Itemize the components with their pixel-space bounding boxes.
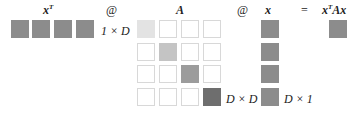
A-cell-2-2 <box>159 43 177 61</box>
x-cell-4 <box>261 88 279 106</box>
x-cell-1 <box>261 20 279 38</box>
A-cell-2-1 <box>137 43 155 61</box>
dim-label-xT: 1 × D <box>101 24 130 39</box>
A-cell-1-2 <box>159 20 177 38</box>
xT-cell-1 <box>11 20 29 38</box>
x-cell-2 <box>261 43 279 61</box>
A-cell-3-4 <box>203 65 221 83</box>
label-at-operator-1: @ <box>106 3 117 18</box>
label-x-transpose: xT <box>43 3 53 18</box>
dim-label-x: D × 1 <box>284 92 313 107</box>
A-cell-4-2 <box>159 88 177 106</box>
A-cell-4-3 <box>181 88 199 106</box>
x-cell-3 <box>261 65 279 83</box>
xT-cell-3 <box>54 20 72 38</box>
dim-label-A: D × D <box>226 92 257 107</box>
A-cell-1-3 <box>181 20 199 38</box>
A-cell-3-1 <box>137 65 155 83</box>
result-cell <box>329 20 347 38</box>
A-cell-4-1 <box>137 88 155 106</box>
A-cell-1-1 <box>137 20 155 38</box>
A-cell-2-4 <box>203 43 221 61</box>
label-equals: = <box>301 3 308 18</box>
label-matrix-A: A <box>176 3 184 18</box>
label-at-operator-2: @ <box>237 3 248 18</box>
A-cell-1-4 <box>203 20 221 38</box>
label-vector-x: x <box>265 3 271 18</box>
xT-cell-4 <box>76 20 94 38</box>
A-cell-3-3 <box>181 65 199 83</box>
A-cell-2-3 <box>181 43 199 61</box>
xT-cell-2 <box>32 20 50 38</box>
label-result: xTAx <box>322 3 346 18</box>
A-cell-4-4 <box>203 88 221 106</box>
A-cell-3-2 <box>159 65 177 83</box>
quadratic-form-diagram: xT @ A @ x = xTAx 1 × D D × D D × 1 <box>0 0 360 117</box>
